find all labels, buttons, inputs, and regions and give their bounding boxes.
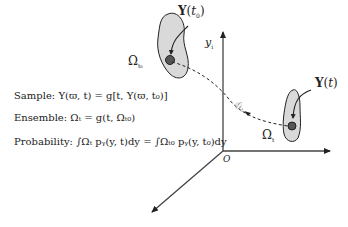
label-y-t0: Y(yt0) <box>178 4 205 19</box>
label-y-t: Y(t) <box>315 76 338 90</box>
probability-expression: ∫Ωₜ pᵧ(y, t)dy = ∫Ωₜ₀ pᵧ(y, t₀)dy <box>76 136 226 147</box>
point-y-t <box>288 122 296 130</box>
label-origin: O <box>223 154 230 164</box>
label-omega-t0: Ωt₀ <box>128 54 143 69</box>
label-axis-y: yi <box>205 36 213 50</box>
z-axis <box>152 151 223 212</box>
ensemble-expression: Ωₜ = g(t, Ωₜ₀) <box>70 112 135 123</box>
equation-sample: Sample: Y(ϖ, t) = g[t, Y(ϖ, t₀)] <box>14 90 168 101</box>
point-y-t0 <box>166 56 175 65</box>
equation-probability: Probability: ∫Ωₜ pᵧ(y, t)dy = ∫Ωₜ₀ pᵧ(y,… <box>14 136 227 147</box>
equation-ensemble: Ensemble: Ωₜ = g(t, Ωₜ₀) <box>14 112 135 123</box>
sample-expression: Y(ϖ, t) = g[t, Y(ϖ, t₀)] <box>58 90 167 101</box>
region-omega-t <box>283 90 300 142</box>
label-omega-t: Ωt <box>262 128 274 143</box>
flow-trajectory <box>172 62 288 126</box>
label-flow-map: 𝒢t <box>234 100 243 113</box>
